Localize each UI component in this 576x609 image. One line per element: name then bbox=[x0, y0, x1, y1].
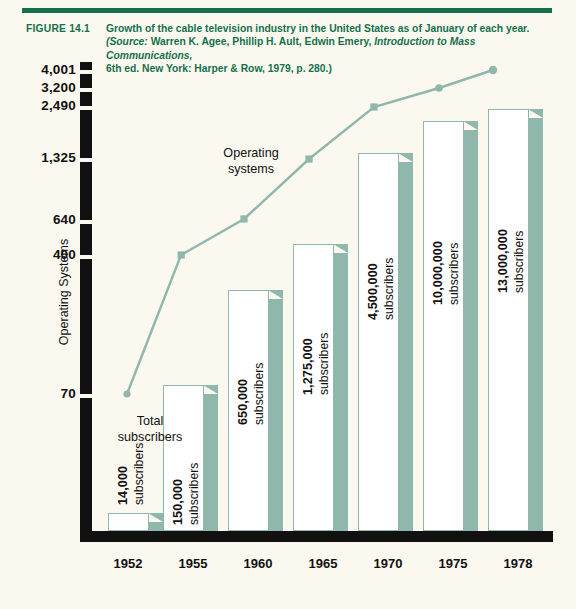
annotation-total-subscribers: Total subscribers bbox=[95, 413, 205, 445]
chart-plot-area: 4,001 3,200 2,490 1,325 640 400 70 Opera… bbox=[0, 0, 576, 609]
annotation-operating-systems-line2: systems bbox=[196, 161, 306, 177]
x-axis bbox=[80, 531, 553, 542]
x-tick-label-1975: 1975 bbox=[423, 556, 483, 571]
figure-page: FIGURE 14.1 Growth of the cable televisi… bbox=[0, 0, 576, 609]
operating-systems-polyline bbox=[127, 70, 493, 394]
data-point-1965[interactable] bbox=[305, 155, 312, 162]
annotation-operating-systems: Operating systems bbox=[196, 145, 306, 177]
data-point-1975[interactable] bbox=[435, 84, 443, 92]
data-point-1960[interactable] bbox=[240, 215, 247, 222]
data-point-1970[interactable] bbox=[370, 103, 377, 110]
annotation-total-subscribers-line1: Total bbox=[95, 413, 205, 429]
operating-systems-line-series bbox=[0, 0, 576, 609]
x-tick-label-1978: 1978 bbox=[488, 556, 548, 571]
x-tick-label-1965: 1965 bbox=[293, 556, 353, 571]
data-point-1955[interactable] bbox=[178, 251, 185, 258]
data-point-1952[interactable] bbox=[123, 390, 130, 397]
x-tick-label-1955: 1955 bbox=[163, 556, 223, 571]
x-tick-label-1952: 1952 bbox=[98, 556, 158, 571]
annotation-total-subscribers-line2: subscribers bbox=[95, 429, 205, 445]
annotation-operating-systems-line1: Operating bbox=[196, 145, 306, 161]
x-tick-label-1970: 1970 bbox=[358, 556, 418, 571]
x-tick-label-1960: 1960 bbox=[228, 556, 288, 571]
data-point-1978[interactable] bbox=[489, 66, 497, 74]
